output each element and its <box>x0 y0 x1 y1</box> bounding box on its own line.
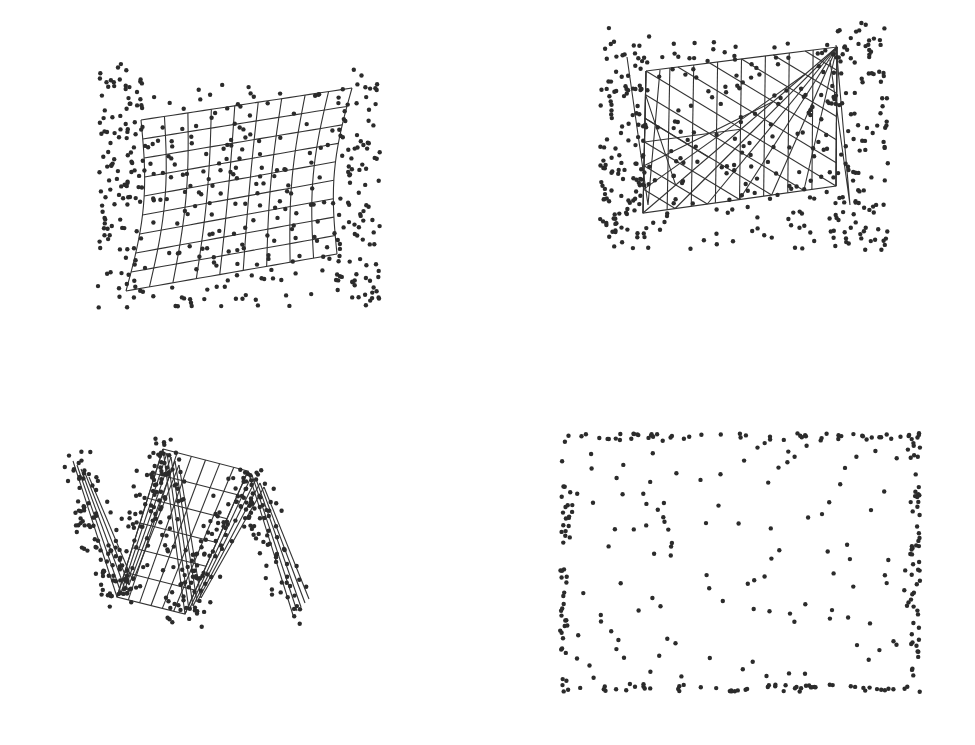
data-point <box>715 242 719 246</box>
data-point <box>325 245 329 249</box>
data-point <box>731 239 735 243</box>
data-point <box>642 170 646 174</box>
data-point <box>738 435 742 439</box>
data-point <box>769 526 773 530</box>
data-point <box>561 540 565 544</box>
data-point <box>374 289 378 293</box>
data-point <box>651 435 655 439</box>
data-point <box>867 71 871 75</box>
data-point <box>687 56 691 60</box>
data-point <box>910 573 914 577</box>
data-point <box>613 222 617 226</box>
data-point <box>98 246 102 250</box>
data-point <box>174 451 178 455</box>
data-point <box>361 237 365 241</box>
data-point <box>714 133 718 137</box>
data-point <box>219 191 223 195</box>
data-point <box>183 573 187 577</box>
data-point <box>188 297 192 301</box>
data-point <box>110 224 114 228</box>
data-point <box>101 116 105 120</box>
data-point <box>110 115 114 119</box>
data-point <box>230 539 234 543</box>
data-point <box>635 231 639 235</box>
data-point <box>159 481 163 485</box>
data-point <box>863 44 867 48</box>
data-point <box>182 479 186 483</box>
data-point <box>651 221 655 225</box>
data-point <box>802 95 806 99</box>
data-point <box>118 217 122 221</box>
data-point <box>730 207 734 211</box>
data-point <box>714 207 718 211</box>
data-point <box>676 55 680 59</box>
data-point <box>613 217 617 221</box>
data-point <box>647 165 651 169</box>
data-point <box>172 483 176 487</box>
data-point <box>782 689 786 693</box>
data-point <box>312 235 316 239</box>
data-point <box>207 177 211 181</box>
data-point <box>216 521 220 525</box>
data-point <box>699 433 703 437</box>
data-point <box>767 609 771 613</box>
data-point <box>860 80 864 84</box>
data-point <box>808 195 812 199</box>
data-point <box>337 254 341 258</box>
data-point <box>226 502 230 506</box>
data-point <box>680 181 684 185</box>
data-point <box>268 542 272 546</box>
data-point <box>619 194 623 198</box>
data-point <box>613 228 617 232</box>
data-point <box>797 170 801 174</box>
data-point <box>129 150 133 154</box>
data-point <box>349 156 353 160</box>
data-point <box>562 689 566 693</box>
data-point <box>614 687 618 691</box>
data-point <box>260 166 264 170</box>
data-point <box>108 233 112 237</box>
data-point <box>625 212 629 216</box>
data-point <box>917 560 921 564</box>
data-point <box>261 503 265 507</box>
data-point <box>178 608 182 612</box>
data-point <box>201 524 205 528</box>
data-point <box>788 611 792 615</box>
data-point <box>820 512 824 516</box>
data-point <box>749 75 753 79</box>
data-point <box>72 467 76 471</box>
data-point <box>563 534 567 538</box>
data-point <box>621 177 625 181</box>
data-point <box>875 123 879 127</box>
data-point <box>885 432 889 436</box>
data-point <box>836 171 840 175</box>
data-point <box>839 152 843 156</box>
data-point <box>108 548 112 552</box>
data-point <box>197 190 201 194</box>
data-point <box>125 136 129 140</box>
data-point <box>133 132 137 136</box>
data-point <box>844 91 848 95</box>
data-point <box>100 210 104 214</box>
data-point <box>108 187 112 191</box>
data-point <box>321 255 325 259</box>
data-point <box>210 184 214 188</box>
data-point <box>129 587 133 591</box>
data-point <box>176 487 180 491</box>
data-point <box>170 139 174 143</box>
data-point <box>752 607 756 611</box>
data-point <box>289 191 293 195</box>
data-point <box>377 224 381 228</box>
data-point <box>353 232 357 236</box>
data-point <box>197 88 201 92</box>
data-point <box>857 189 861 193</box>
data-point <box>876 227 880 231</box>
data-point <box>846 615 850 619</box>
data-point <box>294 564 298 568</box>
data-point <box>641 153 645 157</box>
data-point <box>177 457 181 461</box>
data-point <box>633 51 637 55</box>
data-point <box>151 294 155 298</box>
data-point <box>626 198 630 202</box>
data-point <box>576 633 580 637</box>
